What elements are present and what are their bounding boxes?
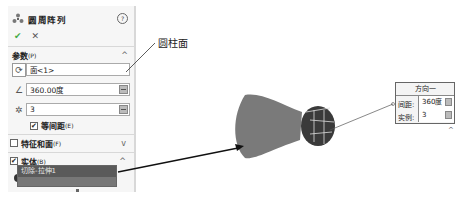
instances-callout-value: 3	[422, 111, 426, 119]
collapse-chevron-icon[interactable]: ^	[448, 126, 454, 134]
spacing-input[interactable]: 360度	[418, 96, 454, 109]
instances-label: 实例:	[398, 112, 414, 122]
cylinder-face-callout: 圆柱面	[158, 35, 188, 50]
direction-title: 方向一	[396, 83, 454, 96]
instances-callout-input[interactable]: 3	[418, 109, 454, 122]
direction-one-callout: 方向一 间距: 360度 实例: 3	[395, 82, 455, 124]
direction-leader	[330, 104, 393, 130]
bodies-leader-arrow	[118, 148, 238, 172]
spacing-value: 360度	[422, 98, 442, 106]
spacing-spinner[interactable]	[445, 98, 452, 106]
spacing-label: 间距:	[398, 99, 414, 109]
cone-body[interactable]	[235, 95, 302, 159]
instances-callout-spinner[interactable]	[445, 111, 452, 119]
callout-leader	[126, 43, 155, 72]
